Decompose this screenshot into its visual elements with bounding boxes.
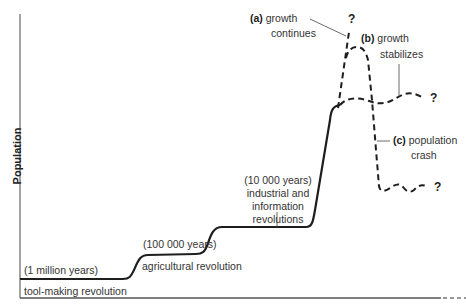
- annotation-b-text-1: growth: [377, 32, 409, 44]
- annotation-c-text-1: population: [409, 134, 457, 146]
- annotation-c-tag: (c): [393, 134, 406, 146]
- stage3-duration: (10 000 years): [236, 174, 320, 187]
- annotation-a: (a) growth: [250, 12, 297, 25]
- annotation-b-tag: (b): [361, 32, 374, 44]
- scenario-b-growth-stabilizes: [340, 93, 424, 105]
- annotation-b-text-2: stabilizes: [380, 48, 423, 61]
- annotation-a-text-1: growth: [266, 12, 298, 24]
- annotation-c: (c) population: [393, 134, 457, 147]
- question-mark-c: ?: [434, 180, 441, 194]
- stage3-line3: revolutions: [236, 213, 320, 226]
- question-mark-b: ?: [430, 91, 437, 105]
- stage2-duration: (100 000 years): [143, 238, 217, 251]
- stage2-label: agricultural revolution: [142, 260, 242, 273]
- annotation-a-text-2: continues: [271, 27, 316, 40]
- stage1-duration: (1 million years): [24, 264, 98, 277]
- annotation-c-text-2: crash: [411, 149, 437, 162]
- scenario-a-growth-continues: [338, 32, 349, 108]
- scenario-c-population-crash: [346, 47, 426, 192]
- y-axis-label: Population: [11, 121, 23, 191]
- annotation-b: (b) growth: [361, 32, 409, 45]
- stage1-label: tool-making revolution: [24, 285, 127, 298]
- question-mark-a: ?: [348, 12, 355, 26]
- annotation-a-tag: (a): [250, 12, 263, 24]
- stage3-line1: industrial and: [236, 187, 320, 200]
- stage3-block: (10 000 years) industrial and informatio…: [236, 174, 320, 226]
- stage3-line2: information: [236, 200, 320, 213]
